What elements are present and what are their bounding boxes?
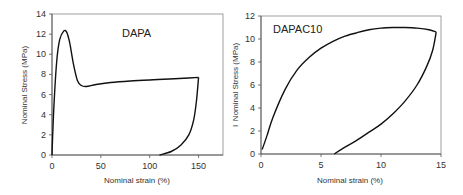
y-tick-label: 12 [36,29,46,39]
stress-strain-curve [52,30,199,155]
y-tick-label: 0 [41,150,46,160]
plot-dapac10: 024681012 051015 DAPAC10 Nominal strain … [231,11,446,185]
x-tick-label: 0 [49,161,54,171]
y-tick-label: 2 [41,130,46,140]
y-axis-label: Nominal Stress (MPa) [231,43,240,122]
y-tick-label: 14 [36,9,46,19]
y-tick-label: 6 [41,90,46,100]
y-tick-label: 2 [250,126,255,136]
x-axis-label: Nominal strain (%) [317,176,383,185]
y-tick-label: 12 [245,11,255,21]
y-tick-label: 10 [245,34,255,44]
y-tick-label: 0 [250,149,255,159]
y-tick-label: 4 [250,103,255,113]
plot-dapa: 02468101214 050100150 DAPA Nominal strai… [20,9,223,185]
x-tick-label: 150 [191,161,206,171]
y-axis-label: Nominal Stress (MPa) [20,46,29,125]
y-tick-label: 8 [41,69,46,79]
y-tick-label: 10 [36,49,46,59]
y-tick-label: 8 [250,57,255,67]
sample-label: DAPAC10 [273,23,322,35]
x-axis-label: Nominal strain (%) [104,176,170,185]
x-tick-label: 5 [318,160,323,170]
x-tick-label: 0 [258,160,263,170]
stray-mark: I [231,125,240,127]
stress-strain-curve [262,27,436,154]
y-tick-label: 4 [41,110,46,120]
figure: 02468101214 050100150 DAPA Nominal strai… [0,0,463,195]
x-tick-label: 15 [436,160,446,170]
sample-label: DAPA [122,27,152,39]
x-tick-label: 10 [376,160,386,170]
x-tick-label: 100 [142,161,157,171]
x-tick-label: 50 [96,161,106,171]
y-tick-label: 6 [250,80,255,90]
